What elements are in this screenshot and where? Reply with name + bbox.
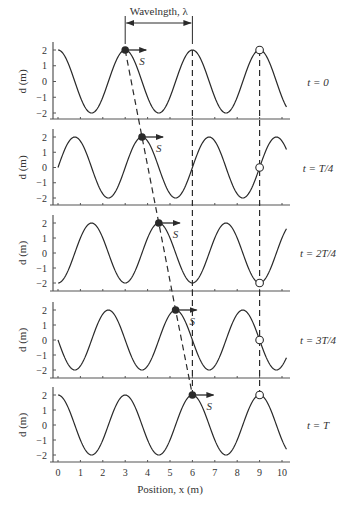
panel-4: 210−1−2d (m)t = T [16, 387, 330, 462]
time-label: t = 3T/4 [300, 334, 337, 346]
x-tick-label: 8 [235, 467, 240, 478]
guide-lines [125, 50, 259, 395]
speed-label: S [173, 228, 179, 240]
y-tick-label: 0 [42, 162, 47, 173]
time-label: t = 2T/4 [300, 247, 337, 259]
y-axis-title: d (m) [16, 241, 29, 265]
crest-marker [155, 219, 163, 227]
x-tick-label: 10 [277, 467, 287, 478]
x-axis-labels: 012345678910 [56, 467, 288, 478]
y-tick-label: −1 [36, 177, 47, 188]
fixed-point-marker [256, 279, 264, 287]
wavelength-bracket: Wavelngth, λ [125, 5, 192, 44]
panel-1: 210−1−2d (m)t = T/4 [16, 129, 334, 205]
y-tick-label: 1 [42, 405, 47, 416]
y-tick-label: 2 [42, 390, 47, 401]
y-tick-label: −2 [36, 108, 47, 119]
crest-marker [121, 46, 129, 54]
y-tick-label: 0 [42, 420, 47, 431]
y-tick-label: 1 [42, 233, 47, 244]
x-tick-label: 6 [190, 467, 195, 478]
wavelength-label: Wavelngth, λ [130, 5, 189, 17]
x-tick-label: 7 [212, 467, 217, 478]
speed-label: S [190, 315, 196, 327]
x-tick-label: 3 [123, 467, 128, 478]
panel-0: 210−1−2d (m)t = 0 [16, 42, 329, 119]
speed-label: S [206, 400, 212, 412]
x-tick-label: 4 [145, 467, 150, 478]
fixed-point-marker [256, 336, 264, 344]
panel-2: 210−1−2d (m)t = 2T/4 [16, 215, 337, 291]
crest-marker [172, 306, 180, 314]
time-label: t = 0 [307, 76, 329, 88]
y-axis-title: d (m) [16, 69, 29, 93]
y-tick-label: 1 [42, 147, 47, 158]
speed-label: S [139, 55, 145, 67]
y-tick-label: 1 [42, 320, 47, 331]
y-tick-label: 2 [42, 45, 47, 56]
crest-marker [189, 391, 197, 399]
y-tick-label: −2 [36, 193, 47, 204]
y-tick-label: −1 [36, 92, 47, 103]
time-label: t = T [307, 419, 330, 431]
wave-curve [58, 310, 286, 370]
y-axis-title: d (m) [16, 328, 29, 352]
time-label: t = T/4 [303, 162, 334, 174]
y-tick-label: −1 [36, 350, 47, 361]
y-tick-label: −2 [36, 278, 47, 289]
y-tick-label: −2 [36, 450, 47, 461]
panels: 210−1−2d (m)t = 0210−1−2d (m)t = T/4210−… [16, 42, 337, 462]
y-axis-title: d (m) [16, 413, 29, 437]
crest-marker [138, 133, 146, 141]
y-tick-label: 0 [42, 335, 47, 346]
y-tick-label: 2 [42, 132, 47, 143]
wave-propagation-diagram: Wavelngth, λ 210−1−2d (m)t = 0210−1−2d (… [0, 0, 354, 510]
y-tick-label: 0 [42, 76, 47, 87]
wave-curve [58, 395, 286, 455]
fixed-point-marker [256, 164, 264, 172]
x-tick-label: 2 [100, 467, 105, 478]
y-tick-label: 0 [42, 248, 47, 259]
y-tick-label: 1 [42, 60, 47, 71]
y-tick-label: −1 [36, 263, 47, 274]
fixed-point-marker [256, 46, 264, 54]
y-tick-label: −1 [36, 435, 47, 446]
fixed-point-marker [256, 391, 264, 399]
x-tick-label: 9 [257, 467, 262, 478]
speed-label: S [156, 142, 162, 154]
x-axis-title: Position, x (m) [137, 483, 203, 496]
y-tick-label: −2 [36, 365, 47, 376]
x-tick-label: 5 [168, 467, 173, 478]
y-axis-title: d (m) [16, 155, 29, 179]
wave-curve [58, 50, 286, 113]
x-tick-label: 1 [78, 467, 83, 478]
x-tick-label: 0 [56, 467, 61, 478]
wave-curve [58, 137, 286, 198]
y-tick-label: 2 [42, 218, 47, 229]
y-tick-label: 2 [42, 305, 47, 316]
